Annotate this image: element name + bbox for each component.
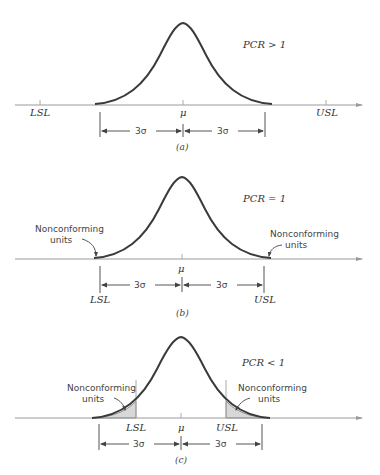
caption: (a) [176, 142, 189, 152]
lsl-label: LSL [89, 294, 110, 305]
pcr-figure: LSL USL μ PCR > 1 3σ 3σ (a) μ PCR = 1 No… [0, 0, 380, 475]
right-note-line1: Nonconforming [270, 229, 339, 239]
left-note-arrow [82, 239, 96, 256]
normal-curve [92, 337, 270, 418]
pcr-label: PCR > 1 [242, 39, 286, 50]
mean-label: μ [180, 107, 187, 118]
left-note-line2: units [82, 394, 104, 404]
left-note-line1: Nonconforming [35, 224, 104, 234]
mean-label: μ [178, 422, 185, 433]
left-span-label: 3σ [134, 280, 146, 290]
caption: (c) [175, 455, 188, 465]
right-note-line2: units [285, 240, 307, 250]
left-span-label: 3σ [133, 439, 145, 449]
usl-label: USL [216, 422, 238, 433]
right-note-arrow [269, 245, 282, 256]
panel-c: PCR < 1 Nonconforming units Nonconformin… [15, 337, 362, 465]
right-note-line1: Nonconforming [238, 383, 307, 393]
right-note-line2: units [258, 394, 280, 404]
left-note-line2: units [50, 235, 72, 245]
mean-label: μ [178, 263, 185, 274]
lsl-label: LSL [125, 422, 146, 433]
lsl-label: LSL [29, 107, 50, 118]
usl-label: USL [254, 294, 276, 305]
left-note-line1: Nonconforming [67, 383, 136, 393]
right-span-label: 3σ [215, 439, 227, 449]
normal-curve [94, 177, 271, 258]
pcr-label: PCR = 1 [242, 193, 286, 204]
panel-b: μ PCR = 1 Nonconforming units Nonconform… [15, 177, 362, 318]
panel-a: LSL USL μ PCR > 1 3σ 3σ (a) [15, 23, 362, 152]
caption: (b) [176, 308, 189, 318]
right-span-label: 3σ [216, 280, 228, 290]
usl-label: USL [316, 107, 338, 118]
normal-curve [95, 23, 272, 104]
left-span-label: 3σ [135, 126, 147, 136]
pcr-label: PCR < 1 [241, 357, 285, 368]
right-span-label: 3σ [217, 126, 229, 136]
